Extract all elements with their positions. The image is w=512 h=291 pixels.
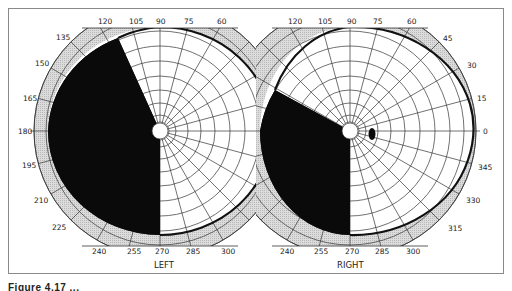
left-label-120: 120	[98, 17, 113, 26]
right-label-15: 15	[477, 94, 487, 103]
left-label-240: 240	[92, 247, 107, 256]
left-label-150: 150	[35, 59, 50, 68]
right-label-45: 45	[443, 34, 453, 43]
figure-caption: Figure 4.17 ...	[8, 283, 79, 291]
left-eye-label: LEFT	[154, 260, 175, 270]
right-eye-label: RIGHT	[337, 260, 364, 270]
right-label-75: 75	[373, 17, 383, 26]
left-label-75: 75	[184, 17, 194, 26]
right-label-285: 285	[375, 247, 390, 256]
left-label-165: 165	[23, 94, 38, 103]
right-eye-chart	[220, 5, 480, 257]
left-label-60: 60	[217, 17, 227, 26]
right-label-105: 105	[318, 17, 333, 26]
right-blind-spot	[369, 128, 376, 140]
left-label-135: 135	[56, 33, 71, 42]
left-label-90: 90	[156, 17, 166, 26]
right-label-120: 120	[288, 17, 303, 26]
right-label-0: 0	[483, 127, 488, 136]
right-label-270: 270	[345, 247, 360, 256]
left-label-225: 225	[52, 223, 67, 232]
right-label-60: 60	[407, 17, 417, 26]
left-label-270: 270	[155, 247, 170, 256]
right-label-255: 255	[314, 247, 329, 256]
right-label-330: 330	[466, 196, 481, 205]
right-label-345: 345	[478, 163, 493, 172]
left-label-180: 180	[18, 127, 33, 136]
left-label-255: 255	[127, 247, 142, 256]
left-eye-chart	[30, 5, 290, 257]
right-label-315: 315	[448, 224, 463, 233]
right-label-30: 30	[467, 61, 477, 70]
visual-field-charts: 120 105 90 75 60 135 150 165 180 195 210…	[0, 0, 512, 291]
left-label-300: 300	[221, 247, 236, 256]
left-label-210: 210	[34, 196, 49, 205]
right-label-300: 300	[406, 247, 421, 256]
right-label-90: 90	[347, 17, 357, 26]
left-label-195: 195	[22, 161, 37, 170]
left-label-105: 105	[129, 17, 144, 26]
left-label-285: 285	[186, 247, 201, 256]
right-label-240: 240	[280, 247, 295, 256]
